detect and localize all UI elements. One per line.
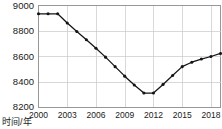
data-point — [152, 91, 155, 94]
data-point — [104, 56, 107, 59]
y-axis-tick-labels: 82008400860088009000 — [13, 0, 34, 112]
data-point — [123, 75, 126, 78]
y-tick-label: 8600 — [13, 51, 34, 62]
x-axis-title: 时间/年 — [2, 116, 32, 127]
x-tick-label: 2009 — [115, 110, 134, 120]
data-point — [133, 84, 136, 87]
data-point — [75, 30, 78, 33]
data-point — [56, 12, 59, 15]
data-point — [142, 91, 145, 94]
x-tick-label: 2003 — [58, 110, 77, 120]
data-point — [219, 52, 222, 55]
data-point — [47, 12, 50, 15]
data-point — [171, 74, 174, 77]
data-point — [190, 61, 193, 64]
x-tick-label: 2018 — [201, 110, 220, 120]
data-point — [181, 65, 184, 68]
data-point — [37, 12, 40, 15]
x-axis-tick-labels: 2000200320062009201220152018 — [29, 110, 221, 120]
data-point — [66, 21, 69, 24]
data-point — [114, 65, 117, 68]
x-tick-label: 2015 — [173, 110, 192, 120]
chart-canvas: 82008400860088009000 2000200320062009201… — [0, 0, 222, 129]
y-tick-label: 9000 — [13, 0, 34, 11]
data-point — [85, 38, 88, 41]
y-tick-label: 8400 — [13, 76, 34, 87]
data-point — [209, 55, 212, 58]
x-tick-label: 2000 — [29, 110, 48, 120]
data-point — [200, 57, 203, 60]
data-point — [161, 83, 164, 86]
x-tick-label: 2006 — [87, 110, 106, 120]
y-tick-label: 8800 — [13, 25, 34, 36]
x-tick-label: 2012 — [144, 110, 163, 120]
data-point — [94, 47, 97, 50]
line-chart: 82008400860088009000 2000200320062009201… — [0, 0, 222, 129]
